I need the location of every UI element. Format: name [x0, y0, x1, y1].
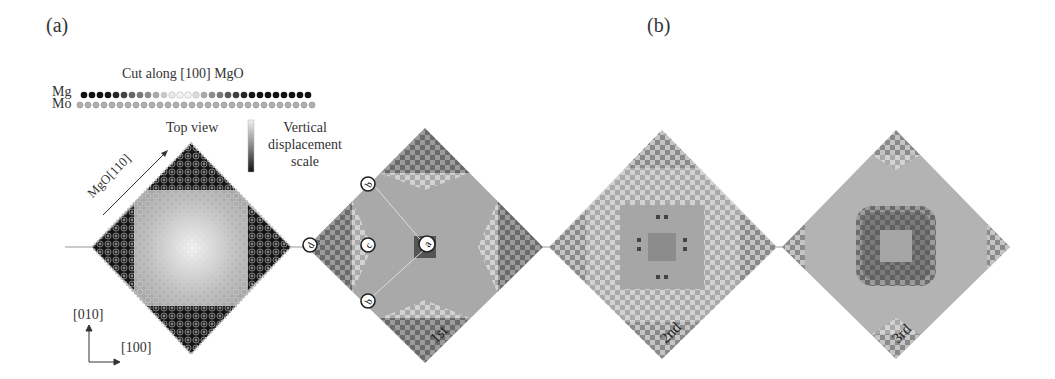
- marker-b-bottom: b: [361, 294, 375, 308]
- mo-atom-row: [77, 102, 315, 108]
- mg-atom-row: [81, 92, 312, 99]
- marker-a: a: [419, 236, 435, 252]
- marker-c: c: [361, 238, 375, 252]
- marker-b-top: b: [361, 177, 375, 191]
- marker-d: d: [303, 238, 317, 252]
- top-view-diamond: [90, 140, 295, 356]
- figure-canvas: a b b c d 1st 2nd 3rd: [0, 0, 1055, 379]
- displacement-scale-bar: [248, 120, 254, 172]
- axes-indicator: [86, 325, 120, 365]
